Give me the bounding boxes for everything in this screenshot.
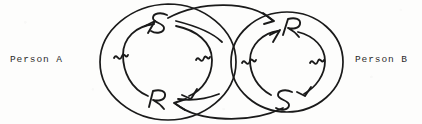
letter-r-glyph-a [149,90,165,109]
inner-ring-a-left-arc [123,24,154,96]
letter-r-glyph-b [283,18,300,37]
loop-person-a [100,4,236,120]
outer-ring-b [231,12,343,112]
outer-ring-a [100,4,236,120]
person-b-label: Person B [355,55,408,65]
flow-arrowhead-a-bottom [182,89,197,99]
letter-s-glyph-b [276,90,292,109]
inner-ring-a-right-arc [176,26,212,96]
node-b-receiver [283,18,300,37]
inner-ring-b-right-arc [298,32,325,94]
connector-top-inner-tail [176,21,222,42]
connector-top-arc [168,5,272,20]
person-a-label: Person A [10,55,63,65]
tick-mark-b-right [310,59,324,63]
connector-a-to-b [168,5,274,42]
loop-person-b [231,12,343,112]
diagram-canvas: .ink { fill: none; stroke: #1a1a1a; stro… [0,0,422,124]
connector-bottom-arrowhead-outer [174,99,186,110]
tick-mark-a-left [114,54,128,58]
flow-arrowhead-b-bottom [297,87,311,96]
tick-mark-a-right [196,56,210,60]
tick-mark-b-left [242,59,256,63]
node-b-sender [276,90,292,109]
node-a-receiver [149,90,165,109]
